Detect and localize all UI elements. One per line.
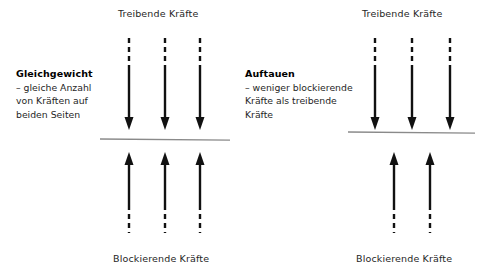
panel-1-driving-arrow-3-head — [196, 117, 205, 130]
panel-2-driving-arrow-3-head — [446, 117, 455, 130]
force-field-diagram: Treibende Kräfte Treibende Kräfte Blocki… — [0, 0, 484, 278]
panel-2-divider — [348, 132, 475, 133]
panel-1-driving-arrow-2-head — [161, 117, 170, 130]
panel-1-driving-arrow-1-head — [125, 117, 134, 130]
panel-2-driving-arrow-1-head — [371, 117, 380, 130]
arrow-layer — [0, 0, 484, 278]
panel-2-driving-arrow-2-head — [408, 117, 417, 130]
panel-1-divider — [100, 139, 230, 140]
